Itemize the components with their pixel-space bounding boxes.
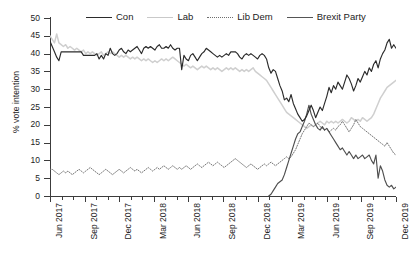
x-tick-major: [119, 197, 120, 202]
x-tick-label: Sep 2019: [365, 203, 375, 239]
y-tick-label: 10: [0, 155, 40, 165]
x-tick-label: Jun 2018: [192, 203, 202, 238]
x-tick-minor: [165, 197, 166, 200]
x-tick-major: [292, 197, 293, 202]
x-tick-label: Dec 2018: [262, 203, 272, 239]
x-tick-minor: [200, 197, 201, 200]
x-tick-minor: [350, 197, 351, 200]
x-tick-minor: [235, 197, 236, 200]
x-tick-minor: [96, 197, 97, 200]
y-tick-label: 45: [0, 30, 40, 40]
x-tick-label: Mar 2018: [158, 203, 168, 239]
y-tick-label: 20: [0, 119, 40, 129]
x-tick-minor: [73, 197, 74, 200]
x-tick-label: Dec 2017: [123, 203, 133, 239]
x-tick-label: Sep 2018: [227, 203, 237, 239]
x-tick-minor: [281, 197, 282, 200]
y-tick-label: 40: [0, 48, 40, 58]
x-tick-major: [50, 197, 51, 202]
x-tick-minor: [62, 197, 63, 200]
x-tick-minor: [246, 197, 247, 200]
x-tick-label: Mar 2019: [296, 203, 306, 239]
x-tick-minor: [385, 197, 386, 200]
series-canvas: [50, 18, 396, 196]
x-tick-major: [258, 197, 259, 202]
x-tick-minor: [338, 197, 339, 200]
series-line-lab: [50, 34, 396, 128]
x-tick-minor: [177, 197, 178, 200]
y-tick-label: 5: [0, 173, 40, 183]
x-tick-minor: [212, 197, 213, 200]
x-tick-label: Jun 2017: [54, 203, 64, 238]
x-tick-label: Sep 2017: [89, 203, 99, 239]
y-tick-label: 30: [0, 84, 40, 94]
x-tick-minor: [142, 197, 143, 200]
y-tick-label: 15: [0, 137, 40, 147]
x-tick-major: [85, 197, 86, 202]
x-tick-major: [361, 197, 362, 202]
x-tick-minor: [131, 197, 132, 200]
x-tick-major: [327, 197, 328, 202]
y-tick-label: 25: [0, 102, 40, 112]
plot-area: [50, 18, 396, 196]
series-line-lib-dem: [50, 119, 396, 174]
x-tick-label: Jun 2019: [331, 203, 341, 238]
x-tick-major: [188, 197, 189, 202]
x-tick-major: [154, 197, 155, 202]
y-tick-label: 35: [0, 66, 40, 76]
x-tick-minor: [373, 197, 374, 200]
x-tick-minor: [108, 197, 109, 200]
x-tick-minor: [269, 197, 270, 200]
x-tick-minor: [304, 197, 305, 200]
y-tick-label: 0: [0, 191, 40, 201]
y-tick-label: 50: [0, 13, 40, 23]
x-tick-major: [223, 197, 224, 202]
series-line-brexit-party: [269, 105, 396, 196]
x-tick-label: Dec 2019: [400, 203, 410, 239]
x-tick-major: [396, 197, 397, 202]
x-tick-minor: [315, 197, 316, 200]
vote-intention-chart: Con Lab Lib Dem Brexit Party % vote inte…: [0, 0, 412, 257]
